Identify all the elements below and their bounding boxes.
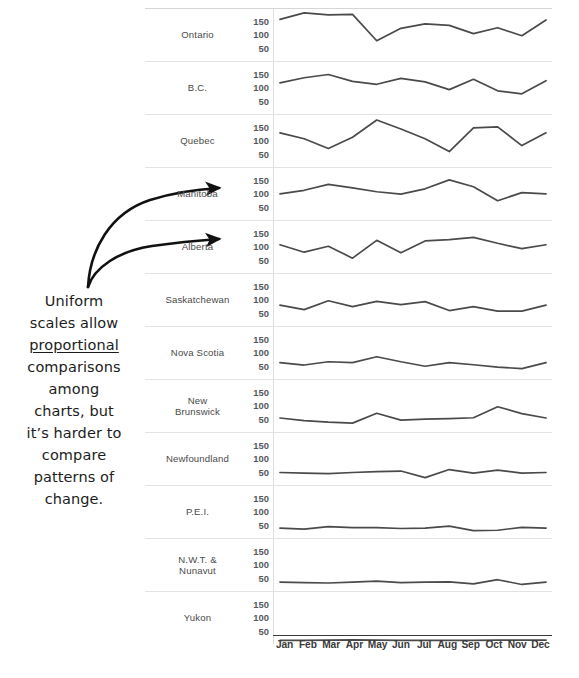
sparkline-plot (273, 62, 552, 114)
sparkline-svg (274, 221, 552, 273)
small-multiple-row: Alberta15010050 (145, 221, 552, 274)
y-tick-label: 100 (253, 81, 269, 94)
y-axis-ticks: 15010050 (243, 327, 273, 379)
row-label-yukon: Yukon (145, 592, 243, 644)
row-label-line-1: Newfoundland (166, 453, 229, 464)
x-tick-label: Apr (343, 639, 366, 650)
small-multiple-row: Nova Scotia15010050 (145, 327, 552, 380)
y-tick-label: 50 (259, 148, 269, 161)
row-label-line-1: N.W.T. & (178, 554, 217, 565)
y-tick-label: 100 (253, 28, 269, 41)
sparkline-svg (274, 9, 552, 61)
y-tick-label: 100 (253, 452, 269, 465)
series-line (280, 470, 546, 478)
y-axis-ticks: 15010050 (243, 221, 273, 273)
annotation-emphasis: proportional (6, 334, 142, 356)
series-line (280, 180, 546, 201)
row-label-line-1: New (188, 395, 208, 406)
y-tick-label: 150 (253, 68, 269, 81)
annotation-line-4: among (6, 378, 142, 400)
row-label-line-1: Yukon (184, 612, 211, 623)
annotation-line-2: scales allow (6, 312, 142, 334)
small-multiple-row: Newfoundland15010050 (145, 433, 552, 486)
row-label-p-e-i: P.E.I. (145, 486, 243, 538)
annotation-line-5: charts, but (6, 400, 142, 422)
sparkline-plot (273, 380, 552, 432)
sparkline-svg (274, 592, 552, 644)
x-axis-line (273, 635, 552, 636)
y-axis-ticks: 15010050 (243, 9, 273, 61)
sparkline-plot (273, 327, 552, 379)
y-axis-ticks: 15010050 (243, 592, 273, 644)
small-multiple-row: Manitoba15010050 (145, 168, 552, 221)
sparkline-plot (273, 539, 552, 591)
small-multiple-row: B.C.15010050 (145, 62, 552, 115)
series-line (280, 526, 546, 530)
y-tick-label: 100 (253, 346, 269, 359)
x-tick-label: Oct (482, 639, 505, 650)
y-tick-label: 150 (253, 439, 269, 452)
y-axis-ticks: 15010050 (243, 115, 273, 167)
y-axis-ticks: 15010050 (243, 274, 273, 326)
series-line (280, 580, 546, 585)
row-label-line-1: Nova Scotia (171, 347, 224, 358)
row-label-line-1: P.E.I. (186, 506, 209, 517)
small-multiple-row: Saskatchewan15010050 (145, 274, 552, 327)
series-line (280, 237, 546, 258)
y-tick-label: 50 (259, 625, 269, 638)
sparkline-svg (274, 62, 552, 114)
sparkline-svg (274, 274, 552, 326)
small-multiple-row: NewBrunswick15010050 (145, 380, 552, 433)
annotation-line-3: comparisons (6, 356, 142, 378)
row-label-alberta: Alberta (145, 221, 243, 273)
y-tick-label: 50 (259, 572, 269, 585)
y-tick-label: 100 (253, 240, 269, 253)
row-label-line-2: Brunswick (175, 406, 220, 417)
sparkline-plot (273, 274, 552, 326)
y-tick-label: 100 (253, 505, 269, 518)
sparkline-svg (274, 433, 552, 485)
x-tick-label: Nov (506, 639, 529, 650)
y-tick-label: 100 (253, 399, 269, 412)
y-tick-label: 50 (259, 95, 269, 108)
y-tick-label: 100 (253, 558, 269, 571)
y-tick-label: 50 (259, 413, 269, 426)
y-tick-label: 100 (253, 293, 269, 306)
sparkline-plot (273, 486, 552, 538)
y-tick-label: 150 (253, 121, 269, 134)
small-multiple-row: Quebec15010050 (145, 115, 552, 168)
row-label-newfoundland: Newfoundland (145, 433, 243, 485)
y-tick-label: 150 (253, 598, 269, 611)
sparkline-svg (274, 486, 552, 538)
annotation-line-8: patterns of (6, 466, 142, 488)
y-tick-label: 150 (253, 545, 269, 558)
row-label-line-1: B.C. (188, 82, 207, 93)
small-multiple-row: P.E.I.15010050 (145, 486, 552, 539)
y-tick-label: 50 (259, 360, 269, 373)
y-tick-label: 150 (253, 386, 269, 399)
series-line (280, 74, 546, 93)
y-tick-label: 50 (259, 307, 269, 320)
sparkline-plot (273, 221, 552, 273)
annotation-line-7: compare (6, 444, 142, 466)
x-tick-label: Aug (436, 639, 459, 650)
x-tick-label: Jul (413, 639, 436, 650)
x-tick-label: Dec (529, 639, 552, 650)
row-label-nova-scotia: Nova Scotia (145, 327, 243, 379)
sparkline-plot (273, 433, 552, 485)
row-label-line-1: Ontario (181, 29, 214, 40)
row-label-saskatchewan: Saskatchewan (145, 274, 243, 326)
y-axis-ticks: 15010050 (243, 539, 273, 591)
y-tick-label: 50 (259, 254, 269, 267)
row-label-b-c: B.C. (145, 62, 243, 114)
annotation-line-6: it’s harder to (6, 422, 142, 444)
y-tick-label: 50 (259, 519, 269, 532)
y-tick-label: 150 (253, 492, 269, 505)
y-tick-label: 150 (253, 227, 269, 240)
row-label-line-1: Saskatchewan (165, 294, 229, 305)
sparkline-plot (273, 168, 552, 220)
small-multiple-row: N.W.T. &Nunavut15010050 (145, 539, 552, 592)
series-line (280, 407, 546, 423)
y-tick-label: 50 (259, 42, 269, 55)
series-line (280, 13, 546, 41)
